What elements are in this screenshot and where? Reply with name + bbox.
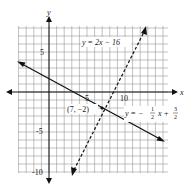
svg-text:1: 1 <box>151 106 154 112</box>
intersection-point <box>100 106 103 109</box>
arrow-head <box>157 136 166 142</box>
arrow-head <box>17 61 26 67</box>
y-axis-arrow-down <box>46 178 52 184</box>
x-axis-arrow-right <box>172 89 178 95</box>
tick-y-5: 5 <box>40 48 44 57</box>
tick-y-neg5: -5 <box>36 127 43 136</box>
arrow-head <box>71 167 77 176</box>
tick-y-neg10: -10 <box>32 168 43 177</box>
tick-x-10: 10 <box>120 94 128 103</box>
svg-text:y = −: y = − <box>124 109 143 118</box>
svg-text:2: 2 <box>151 114 154 120</box>
svg-text:2: 2 <box>174 114 177 120</box>
line-y-neg-half-x <box>22 64 160 139</box>
y-axis-label: y <box>46 8 51 17</box>
coordinate-plane: y x 5 10 5 -5 -10 y = 2x − 16 (7, −2) y … <box>0 0 191 186</box>
x-axis-arrow-left <box>6 89 12 95</box>
svg-text:3: 3 <box>174 106 177 112</box>
svg-text:x +: x + <box>157 109 169 118</box>
tick-x-5: 5 <box>85 94 89 103</box>
intersection-label: (7, −2) <box>67 105 89 114</box>
line1-equation: y = 2x − 16 <box>81 38 120 47</box>
x-axis-label: x <box>179 88 184 97</box>
arrow-head <box>141 26 147 35</box>
